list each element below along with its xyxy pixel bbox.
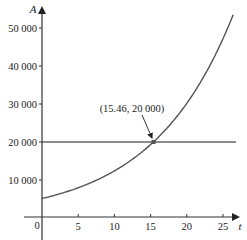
y-axis-label: A — [29, 3, 37, 15]
chart: 10 000 20 000 30 000 40 000 50 000 5 10 … — [0, 0, 247, 240]
y-tick-label-50000: 50 000 — [8, 23, 37, 34]
intersection-label: (15.46, 20 000) — [100, 103, 165, 115]
origin-label: 0 — [34, 220, 39, 231]
x-axis-label: t — [238, 220, 242, 232]
intersection-point — [152, 140, 156, 144]
y-tick-label-30000: 30 000 — [8, 99, 37, 110]
x-tick-label-20: 20 — [182, 221, 193, 232]
y-tick-label-10000: 10 000 — [8, 175, 37, 186]
x-tick-label-25: 25 — [218, 221, 229, 232]
y-tick-label-20000: 20 000 — [8, 137, 37, 148]
x-tick-label-5: 5 — [76, 221, 81, 232]
intersection-pointer — [142, 115, 152, 138]
y-tick-label-40000: 40 000 — [8, 61, 37, 72]
x-tick-label-15: 15 — [145, 221, 156, 232]
x-tick-label-10: 10 — [109, 221, 120, 232]
